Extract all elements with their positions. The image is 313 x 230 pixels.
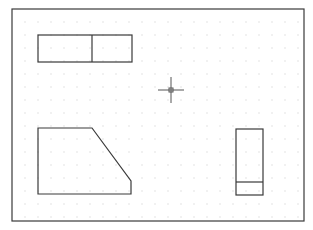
grid-dot: [259, 126, 260, 127]
grid-dot: [207, 87, 208, 88]
grid-dot: [194, 191, 195, 192]
grid-dot: [116, 178, 117, 179]
grid-dot: [116, 191, 117, 192]
grid-dot: [90, 178, 91, 179]
grid-dot: [233, 61, 234, 62]
grid-dot: [285, 217, 286, 218]
grid-dot: [220, 87, 221, 88]
grid-dot: [285, 100, 286, 101]
grid-dot: [233, 22, 234, 23]
grid-dot: [220, 35, 221, 36]
grid-dot: [246, 217, 247, 218]
grid-dot: [155, 74, 156, 75]
grid-dot: [103, 152, 104, 153]
grid-dot: [272, 113, 273, 114]
grid-dot: [103, 217, 104, 218]
grid-dot: [77, 204, 78, 205]
grid-dot: [233, 100, 234, 101]
grid-dot: [259, 191, 260, 192]
grid-dot: [38, 126, 39, 127]
grid-dot: [51, 204, 52, 205]
grid-dot: [51, 191, 52, 192]
grid-dot: [77, 217, 78, 218]
grid-dot: [168, 100, 169, 101]
grid-dot: [25, 178, 26, 179]
grid-dot: [259, 48, 260, 49]
grid-dot: [116, 22, 117, 23]
grid-dot: [129, 139, 130, 140]
grid-dot: [194, 35, 195, 36]
grid-dot: [64, 61, 65, 62]
grid-dot: [168, 178, 169, 179]
grid-dot: [51, 100, 52, 101]
grid-dot: [168, 35, 169, 36]
grid-dot: [298, 113, 299, 114]
grid-dot: [285, 35, 286, 36]
grid-dot: [64, 48, 65, 49]
grid-dot: [272, 126, 273, 127]
grid-dot: [246, 152, 247, 153]
grid-dot: [207, 100, 208, 101]
grid-dot: [272, 139, 273, 140]
grid-dot: [194, 165, 195, 166]
grid-dot: [168, 61, 169, 62]
grid-dot: [51, 152, 52, 153]
grid-dot: [246, 204, 247, 205]
grid-dot: [129, 204, 130, 205]
grid-dot: [220, 178, 221, 179]
grid-dot: [246, 113, 247, 114]
grid-dot: [25, 165, 26, 166]
grid-dot: [194, 22, 195, 23]
grid-dot: [272, 35, 273, 36]
grid-dot: [90, 22, 91, 23]
grid-dot: [207, 217, 208, 218]
grid-dot: [25, 126, 26, 127]
grid-dot: [194, 126, 195, 127]
grid-dot: [103, 204, 104, 205]
grid-dot: [246, 87, 247, 88]
grid-dot: [168, 152, 169, 153]
grid-dot: [272, 191, 273, 192]
grid-dot: [77, 61, 78, 62]
grid-dot: [220, 48, 221, 49]
grid-dot: [155, 48, 156, 49]
grid-dot: [116, 204, 117, 205]
grid-dot: [246, 165, 247, 166]
grid-dot: [129, 152, 130, 153]
grid-dot: [233, 48, 234, 49]
grid-dot: [181, 35, 182, 36]
grid-dot: [64, 165, 65, 166]
grid-dot: [129, 100, 130, 101]
grid-dot: [168, 191, 169, 192]
grid-dot: [155, 35, 156, 36]
grid-dot: [90, 113, 91, 114]
grid-dot: [142, 100, 143, 101]
grid-dot: [194, 48, 195, 49]
grid-dot: [90, 152, 91, 153]
grid-dot: [51, 74, 52, 75]
grid-dot: [259, 217, 260, 218]
grid-dot: [103, 139, 104, 140]
grid-dot: [207, 152, 208, 153]
grid-dot: [155, 87, 156, 88]
grid-dot: [38, 204, 39, 205]
grid-dot: [233, 204, 234, 205]
grid-dot: [285, 191, 286, 192]
grid-dot: [194, 152, 195, 153]
grid-dot: [142, 152, 143, 153]
grid-dot: [25, 204, 26, 205]
grid-dot: [207, 35, 208, 36]
grid-dot: [181, 217, 182, 218]
grid-dot: [220, 74, 221, 75]
grid-dot: [116, 87, 117, 88]
grid-dot: [103, 165, 104, 166]
grid-dot: [194, 74, 195, 75]
grid-dot: [38, 217, 39, 218]
grid-dot: [233, 87, 234, 88]
grid-dot: [142, 126, 143, 127]
grid-dot: [51, 139, 52, 140]
grid-dot: [90, 204, 91, 205]
drawing-canvas[interactable]: [0, 0, 313, 230]
grid-dot: [38, 22, 39, 23]
grid-dot: [298, 22, 299, 23]
